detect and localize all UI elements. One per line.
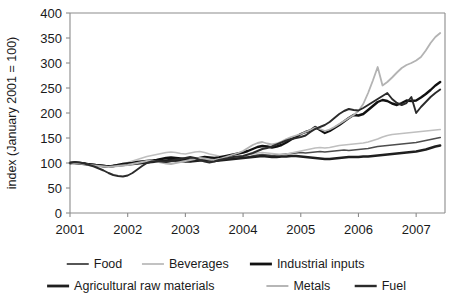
legend-label: Metals <box>293 279 330 293</box>
y-tick-label: 400 <box>40 6 62 21</box>
y-axis-title: index (January 2001 = 100) <box>5 37 19 190</box>
chart-figure: index (January 2001 = 100) 0501001502002… <box>0 0 453 305</box>
x-tick-label: 2006 <box>344 222 373 237</box>
x-tick-label: 2001 <box>56 222 85 237</box>
legend-label: Food <box>94 257 123 271</box>
legend-label: Fuel <box>382 279 406 293</box>
y-tick-label: 150 <box>40 131 62 146</box>
y-tick-label: 50 <box>48 181 62 196</box>
y-tick-label: 0 <box>55 206 62 221</box>
y-tick-label: 250 <box>40 81 62 96</box>
y-tick-label: 350 <box>40 31 62 46</box>
y-tick-label: 100 <box>40 156 62 171</box>
x-tick-label: 2003 <box>171 222 200 237</box>
commodity-price-index-line-chart: index (January 2001 = 100) 0501001502002… <box>0 0 453 305</box>
legend-label: Industrial inputs <box>277 257 365 271</box>
x-tick-label: 2007 <box>402 222 431 237</box>
x-tick-label: 2004 <box>229 222 258 237</box>
x-tick-label: 2005 <box>286 222 315 237</box>
y-tick-label: 300 <box>40 56 62 71</box>
y-axis-title-text: index (January 2001 = 100) <box>5 37 19 190</box>
legend-label: Agricultural raw materials <box>74 279 214 293</box>
x-tick-label: 2002 <box>113 222 142 237</box>
y-tick-label: 200 <box>40 106 62 121</box>
legend-label: Beverages <box>169 257 229 271</box>
